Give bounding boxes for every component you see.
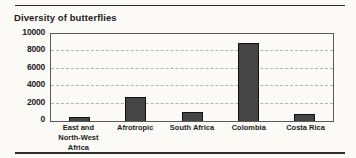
gridline-6000 (51, 68, 333, 69)
x-category-label-afrotropic: Afrotropic (107, 123, 164, 149)
y-tick-label-4000: 4000 (0, 79, 45, 89)
x-category-label-colombia: Colombia (220, 123, 277, 149)
y-tick-label-0: 0 (0, 114, 45, 124)
y-tick-label-2000: 2000 (0, 97, 45, 107)
gridline-8000 (51, 50, 333, 51)
x-category-label-costa-rica: Costa Rica (277, 123, 334, 149)
y-tick-label-6000: 6000 (0, 62, 45, 72)
x-category-label-south-africa: South Africa (164, 123, 221, 149)
bar-afrotropic (125, 97, 146, 121)
plot-area (50, 33, 334, 122)
x-axis-category-labels: East and North-West AfricaAfrotropicSout… (50, 123, 334, 149)
y-tick-label-8000: 8000 (0, 44, 45, 54)
bar-colombia (238, 43, 259, 121)
chart-title: Diversity of butterflies (14, 12, 117, 23)
bar-east-and (69, 117, 90, 121)
gridline-2000 (51, 103, 333, 104)
bar-south-africa (182, 112, 203, 121)
y-tick-label-10000: 10000 (0, 27, 45, 37)
y-axis-tick-labels: 0200040006000800010000 (0, 33, 45, 120)
figure-canvas: { "page": { "background": "#fbfaf6", "te… (0, 0, 356, 158)
x-category-label-east-and: East and North-West Africa (50, 123, 107, 149)
bottom-rule (15, 152, 345, 154)
bar-costa-rica (294, 114, 315, 121)
top-rule (15, 5, 345, 6)
gridline-4000 (51, 85, 333, 86)
